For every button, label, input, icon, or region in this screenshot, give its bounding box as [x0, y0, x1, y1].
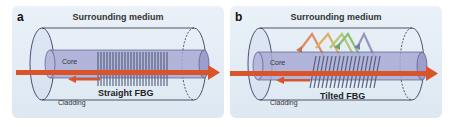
core-label: Core [62, 58, 77, 65]
tilted-fbg-diagram [230, 6, 442, 118]
grating-label: Straight FBG [98, 88, 154, 98]
cladding-label: Cladding [270, 99, 298, 106]
panel-straight-fbg: a Surrounding medium [12, 6, 224, 118]
straight-fbg-diagram [12, 6, 224, 118]
panel-tilted-fbg: b Surrounding medium [230, 6, 442, 118]
grating-label: Tilted FBG [320, 91, 365, 101]
cladding-label: Cladding [58, 99, 86, 106]
core-label: Core [270, 59, 285, 66]
